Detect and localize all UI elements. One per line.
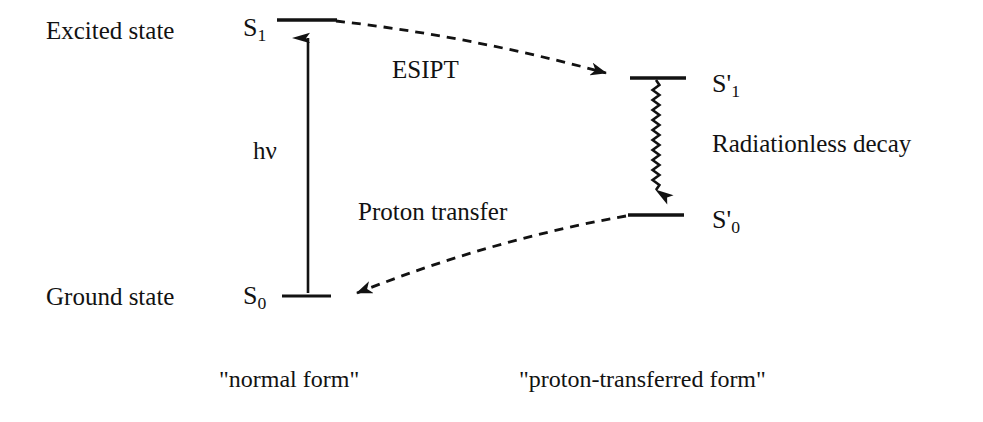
- transition-label-esipt: ESIPT: [392, 57, 459, 82]
- state-label-S0-prime: S'0: [712, 207, 740, 237]
- state-label-S0: S0: [243, 283, 266, 313]
- state-symbol-S1: S: [243, 13, 257, 42]
- transition-label-proton-transfer: Proton transfer: [358, 199, 507, 224]
- transition-label-radiationless-decay: Radiationless decay: [712, 131, 911, 156]
- state-symbol-S0: S: [243, 281, 257, 310]
- state-symbol-S1-prime: S: [712, 69, 726, 98]
- esipt-energy-level-diagram: Excited state Ground state S1 S0 S'1 S'0…: [0, 0, 983, 422]
- caption-normal-form: "normal form": [219, 367, 359, 391]
- state-label-S1-prime: S'1: [712, 71, 740, 101]
- esipt-dashed-arrow: [336, 21, 606, 73]
- axis-label-ground-state: Ground state: [46, 284, 174, 309]
- state-symbol-S0-prime: S: [712, 205, 726, 234]
- state-subscript-S1-prime: 1: [731, 81, 740, 101]
- radiationless-decay-wavy-arrow: [653, 80, 660, 190]
- transition-label-hv: hν: [253, 138, 277, 163]
- caption-proton-transferred-form: "proton-transferred form": [519, 367, 766, 391]
- state-label-S1: S1: [243, 15, 266, 45]
- hv-h-glyph: h: [253, 137, 266, 164]
- state-subscript-S0: 0: [257, 293, 266, 313]
- axis-label-excited-state: Excited state: [46, 18, 174, 43]
- state-subscript-S0-prime: 0: [731, 217, 740, 237]
- proton-transfer-dashed-arrow: [357, 216, 626, 293]
- state-subscript-S1: 1: [257, 25, 266, 45]
- hv-nu-glyph: ν: [266, 137, 277, 164]
